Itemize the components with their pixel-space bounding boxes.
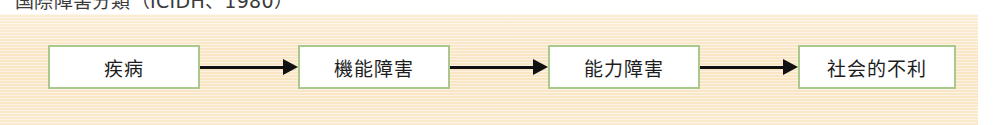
slide-heading: 国際障害分類（ICIDH、1980）	[0, 0, 700, 12]
flow-node-label: 疾病	[104, 54, 144, 81]
flow-node-disability: 能力障害	[548, 45, 700, 89]
flow-node-impairment: 機能障害	[298, 45, 450, 89]
arrow-right-icon	[283, 59, 298, 75]
flow-node-label: 機能障害	[334, 54, 414, 81]
arrow-shaft	[200, 66, 283, 69]
flow-node-disease: 疾病	[48, 45, 200, 89]
slide-content-panel: 疾病 機能障害 能力障害 社会的不利	[0, 14, 978, 125]
arrow-right-icon	[533, 59, 548, 75]
slide-heading-text: 国際障害分類（ICIDH、1980）	[15, 0, 293, 12]
arrow-right-icon	[783, 59, 798, 75]
screenshot-root: 国際障害分類（ICIDH、1980） 疾病 機能障害 能力障害	[0, 0, 995, 125]
icidh-flow-diagram: 疾病 機能障害 能力障害 社会的不利	[0, 45, 978, 91]
flow-node-handicap: 社会的不利	[798, 45, 956, 89]
arrow-shaft	[450, 66, 533, 69]
flow-node-label: 能力障害	[584, 54, 664, 81]
arrow-shaft	[700, 66, 783, 69]
flow-node-label: 社会的不利	[827, 54, 927, 81]
